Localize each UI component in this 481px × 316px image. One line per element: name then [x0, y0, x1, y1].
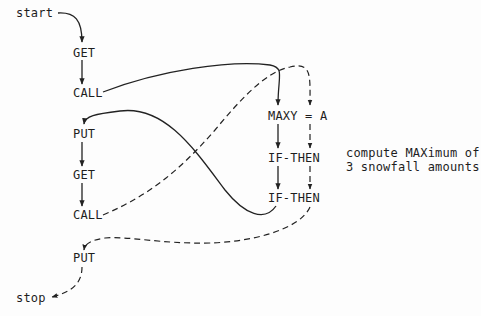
node-put-2: PUT — [73, 251, 95, 265]
node-if-then-1: IF-THEN — [268, 151, 320, 165]
node-put-1: PUT — [73, 127, 95, 141]
edge-put2-stop — [52, 267, 82, 297]
node-call-1: CALL — [73, 86, 103, 100]
annotation-line-2: 3 snowfall amounts — [346, 160, 480, 174]
node-get-1: GET — [73, 46, 95, 60]
flow-diagram: start GET CALL PUT GET CALL PUT stop MAX… — [0, 0, 481, 316]
node-maxy-assign: MAXY = A — [268, 109, 327, 123]
edge-if2-put — [84, 110, 276, 214]
node-call-2: CALL — [73, 208, 103, 222]
edge-if2-put2 — [84, 207, 310, 250]
start-label: start — [16, 6, 53, 20]
edge-call-maxy — [103, 64, 280, 105]
node-if-then-2: IF-THEN — [268, 191, 320, 205]
annotation-line-1: compute MAXimum of — [346, 146, 480, 160]
node-get-2: GET — [73, 168, 95, 182]
stop-label: stop — [16, 291, 46, 305]
edge-start-get — [58, 13, 82, 42]
